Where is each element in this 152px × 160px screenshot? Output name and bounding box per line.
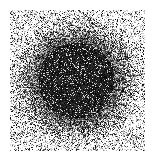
stipple-disc-canvas xyxy=(0,0,152,160)
